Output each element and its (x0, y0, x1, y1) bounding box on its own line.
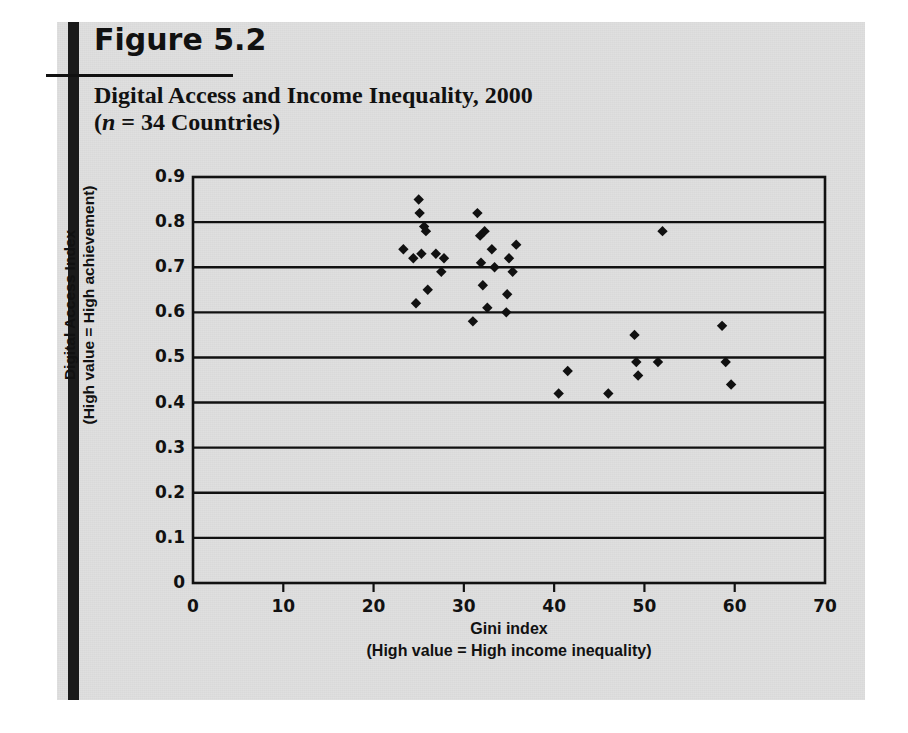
data-point (398, 244, 408, 254)
y-axis-label-main: Digital Access Index (60, 165, 79, 445)
data-point (504, 253, 514, 263)
x-tick-label: 60 (715, 596, 755, 616)
data-point (603, 388, 613, 398)
data-point (511, 239, 521, 249)
data-point (487, 244, 497, 254)
y-tick-label: 0.6 (139, 301, 185, 321)
data-point (553, 388, 563, 398)
y-tick-label: 0.4 (139, 392, 185, 412)
data-point (502, 289, 512, 299)
data-point (562, 366, 572, 376)
x-tick-label: 70 (805, 596, 845, 616)
data-point (489, 262, 499, 272)
y-axis-label: Digital Access Index (High value = High … (60, 165, 98, 445)
figure-root: Figure 5.2 Digital Access and Income Ine… (0, 0, 908, 733)
data-points (398, 194, 736, 398)
data-point (423, 285, 433, 295)
data-point (629, 330, 639, 340)
plot-frame (193, 177, 825, 583)
data-point (472, 208, 482, 218)
y-tick-label: 0.2 (139, 482, 185, 502)
x-tick-label: 30 (444, 596, 484, 616)
y-tick-label: 0.9 (139, 166, 185, 186)
x-axis-label-main: Gini index (193, 618, 825, 640)
data-point (468, 316, 478, 326)
y-tick-label: 0.8 (139, 211, 185, 231)
y-tick-label: 0.5 (139, 346, 185, 366)
data-point (726, 379, 736, 389)
x-tick-marks (283, 583, 734, 592)
data-point (408, 253, 418, 263)
y-tick-label: 0 (139, 572, 185, 592)
data-point (414, 208, 424, 218)
y-tick-label: 0.3 (139, 437, 185, 457)
x-tick-label: 40 (534, 596, 574, 616)
y-axis-label-sub: (High value = High achievement) (79, 165, 98, 445)
gridlines (193, 222, 825, 538)
x-tick-label: 50 (624, 596, 664, 616)
data-point (411, 298, 421, 308)
x-tick-label: 20 (354, 596, 394, 616)
data-point (478, 280, 488, 290)
data-point (657, 226, 667, 236)
x-tick-label: 0 (173, 596, 213, 616)
data-point (633, 370, 643, 380)
y-tick-label: 0.1 (139, 527, 185, 547)
data-point (416, 248, 426, 258)
data-point (717, 321, 727, 331)
x-axis-label: Gini index (High value = High income ine… (193, 618, 825, 662)
data-point (431, 248, 441, 258)
data-point (439, 253, 449, 263)
data-point (501, 307, 511, 317)
data-point (414, 194, 424, 204)
x-tick-label: 10 (263, 596, 303, 616)
x-axis-label-sub: (High value = High income inequality) (193, 640, 825, 662)
scatter-chart: 00.10.20.30.40.50.60.70.80.9 01020304050… (0, 0, 908, 733)
y-tick-label: 0.7 (139, 256, 185, 276)
